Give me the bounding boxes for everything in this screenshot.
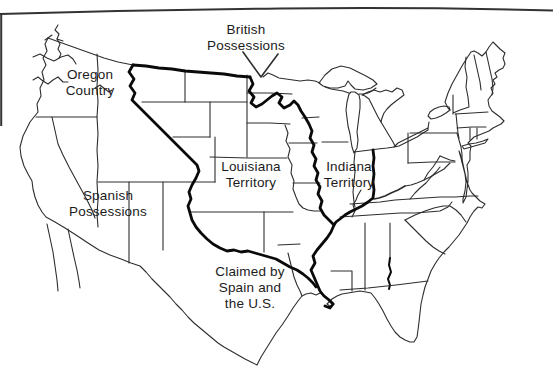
- lake-erie: [394, 128, 428, 147]
- niagara: [428, 122, 429, 128]
- lake-st-clair: [381, 122, 395, 146]
- map-figure: British Possessions Oregon Country Louis…: [0, 0, 553, 388]
- columbia-river: [33, 54, 76, 64]
- label-louisiana-territory: Louisiana Territory: [221, 159, 281, 191]
- columbia-river-lower: [33, 77, 68, 84]
- lake-michigan: [346, 92, 360, 153]
- lake-ontario: [428, 106, 450, 119]
- boundary-49th-parallel: [133, 65, 250, 77]
- long-island: [462, 139, 488, 149]
- label-british-possessions: British Possessions: [207, 22, 285, 54]
- label-claimed-by-spain-and-us: Claimed by Spain and the U.S.: [215, 264, 285, 312]
- sabine-river: [288, 253, 302, 296]
- british-possessions-pointer-arrow: [243, 52, 278, 77]
- lake-superior: [319, 66, 377, 90]
- great-lakes: [319, 66, 450, 153]
- label-spanish-possessions: Spanish Possessions: [69, 188, 147, 220]
- label-indiana-territory: Indiana Territory: [324, 159, 375, 191]
- top-rule: [0, 8, 553, 14]
- label-oregon-country: Oregon Country: [66, 67, 115, 99]
